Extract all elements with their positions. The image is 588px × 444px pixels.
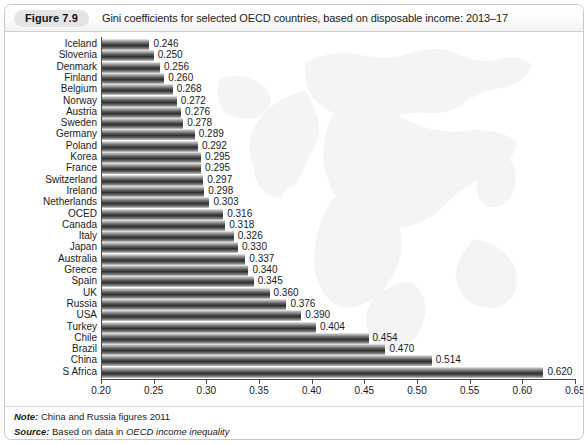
category-label: Japan xyxy=(5,241,97,253)
bar-value-label: 0.360 xyxy=(274,287,299,299)
category-label: Slovenia xyxy=(5,49,97,61)
x-axis-tick-label: 0.55 xyxy=(460,385,479,396)
figure-header: Figure 7.9 Gini coefficients for selecte… xyxy=(5,5,583,32)
category-label: Ireland xyxy=(5,185,97,197)
category-label: Brazil xyxy=(5,343,97,355)
bar-value-label: 0.620 xyxy=(547,366,572,378)
bar xyxy=(101,276,254,287)
x-axis-tick xyxy=(575,380,576,384)
x-axis-tick-label: 0.40 xyxy=(302,385,321,396)
bar-value-label: 0.326 xyxy=(238,230,263,242)
x-axis-tick-label: 0.50 xyxy=(407,385,426,396)
x-axis-tick-label: 0.20 xyxy=(91,385,110,396)
bar xyxy=(101,333,369,344)
bar xyxy=(101,344,385,355)
category-label: Iceland xyxy=(5,38,97,50)
figure-caption: Gini coefficients for selected OECD coun… xyxy=(102,12,508,24)
category-label: Spain xyxy=(5,275,97,287)
bar-value-label: 0.278 xyxy=(187,117,212,129)
bar-value-label: 0.376 xyxy=(290,298,315,310)
category-label: Netherlands xyxy=(5,196,97,208)
category-label: Belgium xyxy=(5,83,97,95)
bar xyxy=(101,242,238,253)
bar xyxy=(101,299,286,310)
bar-value-label: 0.470 xyxy=(389,343,414,355)
note-label: Note: xyxy=(14,411,38,422)
bar xyxy=(101,186,204,197)
source-publication: OECD income inequality xyxy=(126,426,230,437)
x-axis-tick-label: 0.35 xyxy=(249,385,268,396)
bar xyxy=(101,175,203,186)
bar xyxy=(101,118,183,129)
x-axis-tick-label: 0.65 xyxy=(565,385,584,396)
category-label: Greece xyxy=(5,264,97,276)
source-label: Source: xyxy=(14,426,49,437)
bar-value-label: 0.454 xyxy=(373,332,398,344)
x-axis-tick xyxy=(417,380,418,384)
bar xyxy=(101,84,173,95)
bar-value-label: 0.295 xyxy=(205,151,230,163)
bar xyxy=(101,163,201,174)
category-label: Canada xyxy=(5,219,97,231)
bar-value-label: 0.298 xyxy=(208,185,233,197)
bar-value-label: 0.260 xyxy=(168,72,193,84)
bar-value-label: 0.289 xyxy=(199,128,224,140)
bar xyxy=(101,209,223,220)
category-label: Switzerland xyxy=(5,174,97,186)
bar-value-label: 0.330 xyxy=(242,241,267,253)
bar-value-label: 0.345 xyxy=(258,275,283,287)
x-axis-tick-label: 0.30 xyxy=(197,385,216,396)
chart-plot-area: Iceland0.246Slovenia0.250Denmark0.256Fin… xyxy=(5,33,584,405)
bar-value-label: 0.514 xyxy=(436,354,461,366)
source-line: Source: Based on data in OECD income ine… xyxy=(14,426,229,437)
bar-value-label: 0.340 xyxy=(252,264,277,276)
bar xyxy=(101,152,201,163)
category-label: France xyxy=(5,162,97,174)
bar xyxy=(101,254,245,265)
bar-value-label: 0.292 xyxy=(202,140,227,152)
category-label: Norway xyxy=(5,95,97,107)
bar-value-label: 0.297 xyxy=(207,174,232,186)
x-axis-tick-label: 0.45 xyxy=(355,385,374,396)
category-label: Denmark xyxy=(5,61,97,73)
x-axis-tick-label: 0.60 xyxy=(513,385,532,396)
bar xyxy=(101,231,234,242)
category-label: Austria xyxy=(5,106,97,118)
bar xyxy=(101,50,154,61)
bar-rows: Iceland0.246Slovenia0.250Denmark0.256Fin… xyxy=(5,33,584,375)
category-label: OCED xyxy=(5,208,97,220)
source-text: Based on data in xyxy=(49,426,126,437)
category-label: Poland xyxy=(5,140,97,152)
x-axis-tick xyxy=(259,380,260,384)
bar xyxy=(101,367,543,378)
note-line: Note: China and Russia figures 2011 xyxy=(14,411,170,422)
x-axis-tick-label: 0.25 xyxy=(144,385,163,396)
x-axis-tick xyxy=(312,380,313,384)
x-axis-tick xyxy=(470,380,471,384)
bar xyxy=(101,107,181,118)
bar-value-label: 0.272 xyxy=(181,95,206,107)
category-label: Germany xyxy=(5,128,97,140)
category-label: Chile xyxy=(5,332,97,344)
bar xyxy=(101,73,164,84)
category-label: Turkey xyxy=(5,321,97,333)
bar-value-label: 0.316 xyxy=(227,208,252,220)
bar-value-label: 0.318 xyxy=(229,219,254,231)
bar-row: S Africa0.620 xyxy=(5,367,584,378)
y-axis-line xyxy=(101,37,102,379)
category-label: Russia xyxy=(5,298,97,310)
bar xyxy=(101,310,301,321)
figure-notes: Note: China and Russia figures 2011 Sour… xyxy=(5,406,584,440)
bar xyxy=(101,39,149,50)
bar-value-label: 0.390 xyxy=(305,309,330,321)
x-axis-line xyxy=(101,379,576,380)
category-label: UK xyxy=(5,287,97,299)
bar xyxy=(101,355,432,366)
category-label: USA xyxy=(5,309,97,321)
bar-value-label: 0.268 xyxy=(177,83,202,95)
x-axis-tick xyxy=(101,380,102,384)
bar-value-label: 0.276 xyxy=(185,106,210,118)
category-label: China xyxy=(5,354,97,366)
category-label: Sweden xyxy=(5,117,97,129)
bar-value-label: 0.256 xyxy=(164,61,189,73)
